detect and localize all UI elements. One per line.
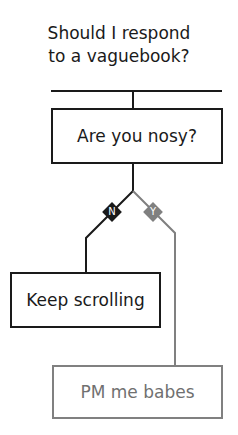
no-outcome-label: Keep scrolling [26, 290, 144, 310]
no-branch-label: N [102, 202, 122, 222]
no-outcome-node: Keep scrolling [10, 272, 161, 328]
yes-branch-label: Y [143, 202, 163, 222]
question-node: Are you nosy? [51, 108, 223, 164]
yes-outcome-label: PM me babes [80, 382, 194, 402]
yes-outcome-node: PM me babes [52, 365, 223, 419]
question-label: Are you nosy? [77, 126, 197, 146]
